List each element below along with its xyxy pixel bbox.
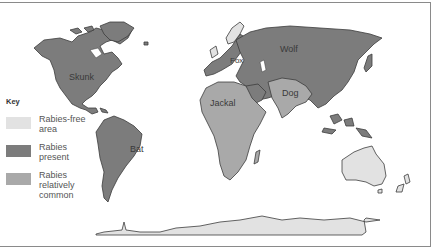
label-fox: Fox <box>230 56 243 65</box>
swatch-rabies-common <box>6 173 31 185</box>
legend-item-rabies-present: Rabies present <box>6 142 96 162</box>
region-new-zealand <box>404 174 410 184</box>
legend-label: common <box>39 190 75 200</box>
legend: Key Rabies-free area Rabies present Rabi… <box>6 97 96 208</box>
label-dog: Dog <box>282 88 299 98</box>
legend-label: Rabies <box>39 170 75 180</box>
legend-label: present <box>39 152 69 162</box>
legend-item-rabies-free: Rabies-free area <box>6 114 96 134</box>
region-australia <box>342 146 386 186</box>
region-madagascar <box>254 150 260 164</box>
region-antarctica <box>96 216 380 235</box>
label-wolf: Wolf <box>280 44 298 54</box>
swatch-rabies-present <box>6 145 31 157</box>
region-south-america <box>96 116 142 202</box>
label-jackal: Jackal <box>210 98 236 108</box>
swatch-rabies-free <box>6 117 31 129</box>
legend-label: Rabies-free <box>39 114 86 124</box>
legend-item-rabies-common: Rabies relatively common <box>6 170 96 200</box>
legend-title: Key <box>6 97 96 106</box>
region-uk <box>210 46 218 58</box>
legend-label: Rabies <box>39 142 69 152</box>
legend-label: relatively <box>39 180 75 190</box>
label-skunk: Skunk <box>69 72 94 82</box>
legend-label: area <box>39 124 86 134</box>
label-bat: Bat <box>130 144 144 154</box>
